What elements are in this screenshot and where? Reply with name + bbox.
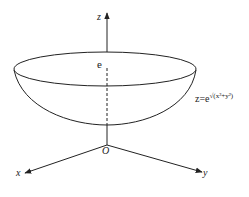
bowl-surface-curve: [14, 70, 196, 125]
x-axis: [25, 145, 107, 173]
x-axis-label: x: [16, 168, 20, 178]
y-axis: [107, 145, 202, 172]
top-point-label: e: [97, 59, 102, 70]
diagram-canvas: z e O x y z=e√(x²+y²): [0, 0, 249, 197]
surface-equation-base: z=e: [195, 93, 210, 104]
surface-equation-exponent: √(x²+y²): [210, 92, 234, 100]
bowl-rim-ellipse: [14, 52, 196, 86]
surface-equation: z=e√(x²+y²): [195, 92, 233, 104]
z-axis-label: z: [97, 12, 101, 22]
y-axis-label: y: [203, 168, 207, 178]
origin-label: O: [102, 146, 109, 156]
